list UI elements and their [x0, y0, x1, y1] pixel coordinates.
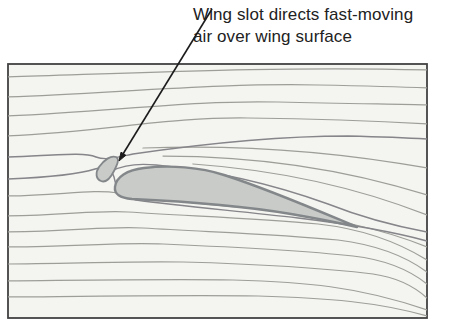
figure-page: Wing slot directs fast-moving air over w… — [0, 0, 462, 335]
airflow-diagram — [0, 0, 462, 335]
